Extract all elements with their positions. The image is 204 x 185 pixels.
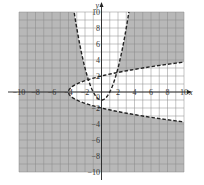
y-tick-label: 2 [96, 72, 100, 81]
y-tick-label: 8 [96, 24, 100, 33]
y-tick-label: 4 [96, 56, 100, 65]
shaded-region [19, 8, 188, 172]
y-tick-label: −4 [91, 120, 100, 129]
x-tick-label: −8 [31, 88, 40, 97]
x-tick-label: 4 [133, 88, 137, 97]
x-tick-label: 6 [149, 88, 153, 97]
x-tick-label: −10 [13, 88, 26, 97]
y-tick-label: −6 [91, 136, 100, 145]
y-tick-label: −10 [87, 168, 100, 177]
y-tick-label: −8 [91, 152, 100, 161]
x-tick-label: −2 [81, 88, 90, 97]
x-tick-label: −4 [64, 88, 73, 97]
y-tick-label: 6 [96, 40, 100, 49]
origin-label: 0 [96, 93, 100, 102]
x-axis-label: x [188, 88, 193, 97]
x-tick-label: 8 [166, 88, 170, 97]
y-axis-label: y [95, 1, 100, 10]
y-tick-label: −2 [91, 104, 100, 113]
y-axis-arrow-icon [100, 2, 104, 7]
x-tick-label: 10 [180, 88, 188, 97]
graph: −10−8−6−4−2246810108642−2−4−6−8−100xy [0, 0, 204, 185]
x-tick-label: −6 [48, 88, 57, 97]
x-tick-label: 2 [116, 88, 120, 97]
